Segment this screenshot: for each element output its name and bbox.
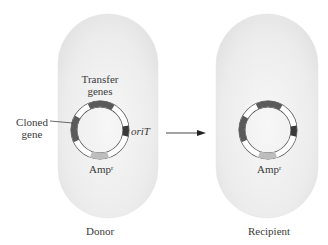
donor-cell — [58, 14, 158, 218]
oriT-label: oriT — [131, 125, 150, 137]
recipient-ampR-base: Amp — [257, 163, 279, 175]
donor-ampR-sup: r — [111, 164, 113, 172]
ampR-segment — [259, 154, 276, 156]
transfer-genes-label-line2: genes — [76, 85, 124, 97]
recipient-cell — [216, 14, 318, 218]
donor-label: Donor — [78, 225, 122, 237]
recipient-ampR-sup: r — [279, 164, 281, 172]
recipient-ampR-label: Ampr — [257, 163, 281, 175]
transfer-arrow — [166, 130, 206, 136]
oriT-segment — [293, 126, 294, 136]
recipient-label: Recipient — [242, 225, 296, 237]
cloned-gene-label-line1: Cloned — [14, 116, 50, 128]
transfer-genes-label: Transfer genes — [76, 73, 124, 97]
donor-ampR-label: Ampr — [89, 163, 113, 175]
oriT-segment — [125, 126, 126, 136]
transfer-genes-label-line1: Transfer — [76, 73, 124, 85]
donor-ampR-base: Amp — [89, 163, 111, 175]
cloned-gene-label: Cloned gene — [14, 116, 50, 140]
cloned-gene-label-line2: gene — [14, 128, 50, 140]
ampR-segment — [91, 154, 108, 156]
